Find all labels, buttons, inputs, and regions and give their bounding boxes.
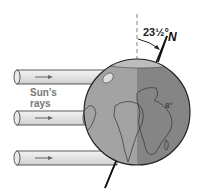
sun-ray-middle [14,111,89,125]
sun-rays-label: Sun's rays [30,87,57,109]
tilt-angle-label: 23½° [143,26,169,38]
globe-mark-label: 8° [165,101,173,110]
tilt-angle-arc [138,39,158,48]
sun-rays-label-line1: Sun's [30,87,57,98]
sun-ray-bottom [14,151,117,165]
sun-rays-label-line2: rays [30,98,57,109]
north-pole-label: N [168,30,177,44]
